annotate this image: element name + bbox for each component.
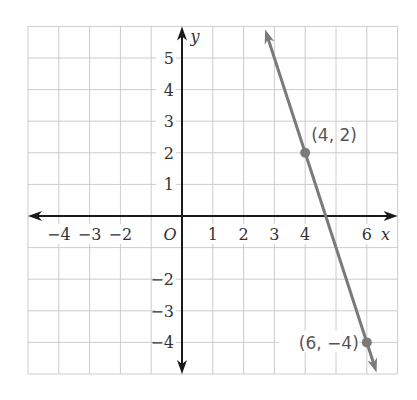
x-tick-label: 2 bbox=[239, 225, 249, 244]
coordinate-plane: xyO−4−3−21234654321−2−3−4 (4, 2)(6, −4) bbox=[0, 0, 417, 400]
graph-line bbox=[268, 37, 374, 365]
y-tick-label: −3 bbox=[150, 302, 174, 321]
y-tick-label: 3 bbox=[164, 112, 174, 131]
x-tick-label: 4 bbox=[300, 225, 310, 244]
tick-labels: xyO−4−3−21234654321−2−3−4 bbox=[47, 27, 390, 352]
x-tick-label: −2 bbox=[109, 225, 133, 244]
data-line bbox=[265, 30, 377, 373]
y-tick-label: −4 bbox=[150, 333, 174, 352]
y-axis-label: y bbox=[189, 27, 200, 46]
x-tick-label: −4 bbox=[47, 225, 71, 244]
data-point bbox=[300, 148, 310, 158]
x-tick-label: 6 bbox=[362, 225, 372, 244]
grid-lines bbox=[28, 26, 398, 374]
origin-label: O bbox=[163, 225, 176, 244]
data-point bbox=[362, 337, 372, 347]
y-tick-label: 4 bbox=[164, 81, 174, 100]
x-axis-label: x bbox=[381, 225, 390, 244]
y-tick-label: 1 bbox=[164, 175, 174, 194]
x-tick-label: −3 bbox=[78, 225, 102, 244]
y-tick-label: 5 bbox=[164, 49, 174, 68]
x-tick-label: 3 bbox=[269, 225, 279, 244]
data-point-label: (4, 2) bbox=[311, 125, 357, 145]
x-tick-label: 1 bbox=[208, 225, 218, 244]
data-point-label: (6, −4) bbox=[299, 333, 359, 353]
y-tick-label: 2 bbox=[164, 144, 174, 163]
y-tick-label: −2 bbox=[150, 270, 174, 289]
